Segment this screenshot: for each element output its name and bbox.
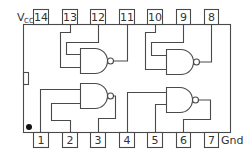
gnd-label: Gnd xyxy=(221,134,243,147)
pin-14-label: 14 xyxy=(34,11,48,24)
pin-11-label: 11 xyxy=(120,11,134,24)
nand-gate-3 xyxy=(61,25,128,74)
pin-6-label: 6 xyxy=(180,134,187,147)
bottom-pins: 1 2 3 4 5 6 7 xyxy=(34,133,219,148)
chip-notch xyxy=(24,73,29,85)
pin-1-label: 1 xyxy=(38,134,45,147)
pin-10-label: 10 xyxy=(148,11,162,24)
pin-4-label: 4 xyxy=(124,134,131,147)
nand-gate-1 xyxy=(41,84,116,133)
pin-5-label: 5 xyxy=(152,134,159,147)
pin-9-label: 9 xyxy=(180,11,187,24)
pin1-marker-dot xyxy=(26,124,32,130)
pin-2-label: 2 xyxy=(67,134,74,147)
top-pins: 14 13 12 11 10 9 8 xyxy=(34,10,219,25)
nand-gate-4 xyxy=(146,25,212,75)
pin-8-label: 8 xyxy=(208,11,215,24)
pin-13-label: 13 xyxy=(63,11,77,24)
nand-gate-2 xyxy=(128,88,211,133)
pin-12-label: 12 xyxy=(91,11,105,24)
pin-3-label: 3 xyxy=(95,134,102,147)
nand-chip-diagram: 14 13 12 11 10 9 8 1 2 3 4 5 6 7 V CC Gn… xyxy=(0,0,251,156)
vcc-subscript: CC xyxy=(24,17,34,25)
pin-7-label: 7 xyxy=(208,134,215,147)
